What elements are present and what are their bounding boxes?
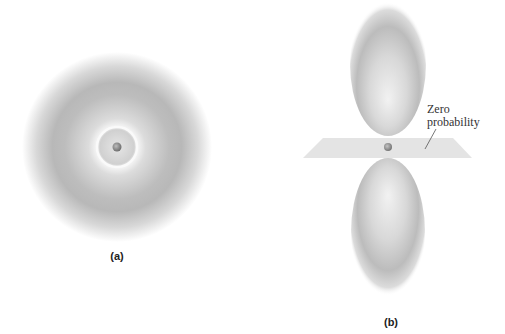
dumbbell-orbital: [250, 0, 505, 334]
upper-lobe: [350, 0, 426, 136]
lower-lobe: [351, 158, 425, 306]
panel-b: Zero probability (b): [250, 0, 505, 334]
panel-a: (a): [0, 0, 250, 334]
zero-probability-label: Zero probability: [427, 103, 480, 129]
label-line-2: probability: [427, 116, 480, 129]
caption-a: (a): [110, 250, 123, 262]
spherical-orbital: [0, 0, 250, 334]
nucleus: [113, 143, 122, 152]
nucleus: [384, 143, 392, 151]
caption-b: (b): [384, 316, 398, 328]
